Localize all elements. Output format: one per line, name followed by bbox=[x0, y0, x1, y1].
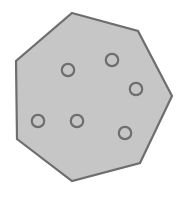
hole-2 bbox=[106, 54, 118, 66]
hole-1 bbox=[62, 64, 74, 76]
hole-6 bbox=[71, 115, 83, 127]
hole-3 bbox=[130, 83, 142, 95]
shape-figure-canvas bbox=[0, 0, 191, 198]
hole-5 bbox=[32, 115, 44, 127]
hole-4 bbox=[119, 127, 131, 139]
